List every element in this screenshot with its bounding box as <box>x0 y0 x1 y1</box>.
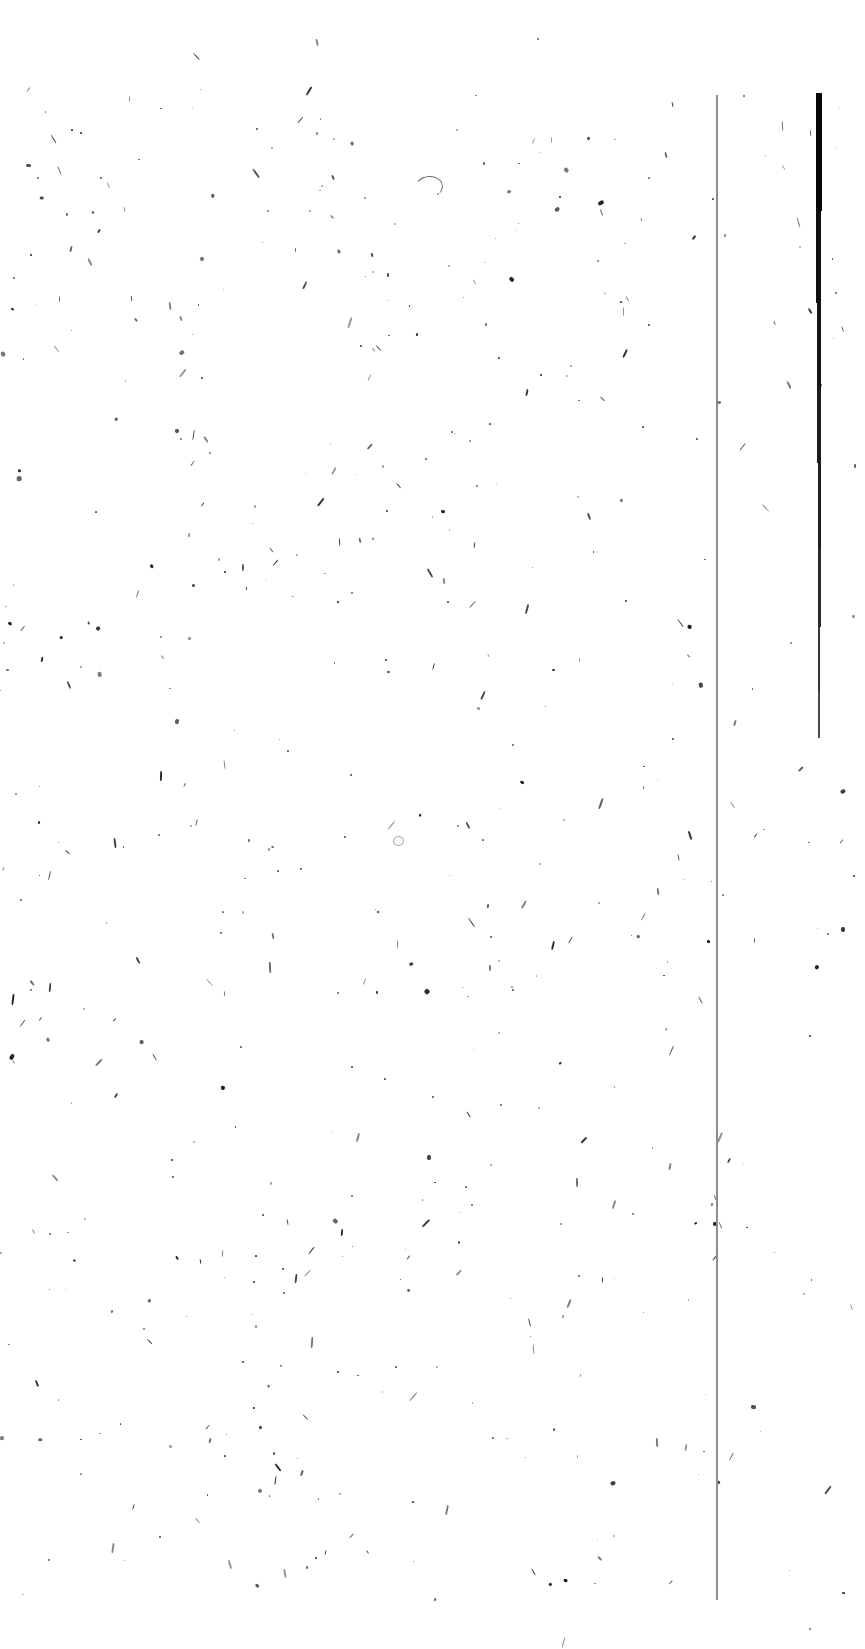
speckle-dot <box>765 155 766 156</box>
speckle-dot <box>39 786 41 788</box>
speckle-dot <box>100 177 102 179</box>
speckle-dot <box>525 389 528 396</box>
speckle-dot <box>632 1213 634 1216</box>
speckle-dot <box>746 1227 748 1229</box>
speckle-dot <box>482 839 484 841</box>
speckle-dot <box>152 1053 157 1060</box>
speckle-dot <box>330 444 332 445</box>
speckle-dot <box>641 912 646 920</box>
speckle-dot <box>579 658 581 662</box>
speckle-dot <box>13 277 15 278</box>
speckle-dot <box>809 1035 811 1037</box>
speckle-dot <box>129 96 131 102</box>
speckle-dot <box>597 260 598 261</box>
speckle-dot <box>252 523 253 524</box>
speckle-dot <box>652 1147 653 1149</box>
speckle-dot <box>372 537 374 539</box>
speckle-dot <box>222 911 223 913</box>
speckle-dot <box>473 1049 474 1051</box>
thick-rule-segment <box>818 627 820 691</box>
speckle-dot <box>518 223 519 224</box>
speckle-dot <box>668 1580 673 1585</box>
speckle-dot <box>99 1433 101 1435</box>
speckle-dot <box>751 1404 756 1408</box>
speckle-dot <box>23 358 25 359</box>
speckle-dot <box>34 1380 38 1387</box>
speckle-dot <box>253 1281 255 1283</box>
speckle-dot <box>521 901 527 909</box>
speckle-dot <box>87 622 90 625</box>
speckle-dot <box>500 1104 502 1106</box>
speckle-dot <box>143 1328 145 1330</box>
speckle-dot <box>498 1032 500 1034</box>
speckle-dot <box>298 117 304 123</box>
speckle-dot <box>52 1175 58 1182</box>
speckle-dot <box>47 1558 50 1561</box>
speckle-dot <box>597 1556 602 1561</box>
speckle-dot <box>309 210 311 213</box>
speckle-dot <box>789 1570 790 1572</box>
speckle-dot <box>199 256 204 261</box>
speckle-dot <box>839 108 840 109</box>
speckle-dot <box>817 928 818 929</box>
speckle-dot <box>636 935 640 939</box>
speckle-dot <box>112 1543 115 1553</box>
speckle-dot <box>423 988 430 995</box>
speckle-dot <box>384 1078 386 1080</box>
speckle-dot <box>540 374 542 376</box>
speckle-dot <box>211 193 214 197</box>
speckle-dot <box>46 1037 50 1042</box>
speckle-dot <box>279 739 280 740</box>
speckle-dot <box>39 875 40 876</box>
speckle-dot <box>694 1221 698 1225</box>
speckle-dot <box>562 1637 566 1647</box>
speckle-dot <box>269 962 271 973</box>
speckle-dot <box>835 292 837 294</box>
speckle-dot <box>301 284 305 290</box>
speckle-dot <box>419 813 422 816</box>
speckle-dot <box>705 1394 706 1395</box>
speckle-dot <box>743 95 744 97</box>
speckle-dot <box>386 510 388 512</box>
speckle-dot <box>665 1027 668 1030</box>
speckle-dot <box>294 1274 296 1283</box>
speckle-dot <box>656 888 659 895</box>
speckle-dot <box>337 1371 339 1373</box>
speckle-dot <box>532 138 535 144</box>
speckle-dot <box>253 1407 255 1409</box>
speckle-dot <box>448 265 450 267</box>
speckle-dot <box>161 655 164 659</box>
speckle-dot <box>698 1474 700 1475</box>
speckle-dot <box>193 1141 195 1143</box>
speckle-dot <box>332 1131 333 1133</box>
speckle-dot <box>413 1561 414 1562</box>
speckle-dot <box>95 1058 102 1065</box>
speckle-dot <box>648 177 650 180</box>
page-text-content <box>0 0 1 1</box>
speckle-dot <box>436 1366 438 1368</box>
speckle-dot <box>5 606 6 607</box>
speckle-dot <box>425 458 427 460</box>
speckle-dot <box>456 1269 462 1275</box>
speckle-dot <box>483 162 485 165</box>
speckle-dot <box>560 1223 562 1225</box>
speckle-dot <box>684 1443 687 1450</box>
speckle-dot <box>539 863 541 865</box>
speckle-dot <box>364 197 366 199</box>
thick-rule-segment <box>817 303 821 389</box>
speckle-dot <box>331 174 334 179</box>
speckle-dot <box>698 683 703 688</box>
speckle-dot <box>209 452 211 453</box>
speckle-dot <box>668 1163 671 1170</box>
speckle-dot <box>811 1279 812 1281</box>
speckle-dot <box>273 560 279 567</box>
speckle-dot <box>509 276 515 282</box>
speckle-dot <box>774 1252 776 1254</box>
speckle-dot <box>124 1560 125 1561</box>
thick-rule-segment <box>817 389 821 463</box>
speckle-dot <box>160 108 162 110</box>
speckle-dot <box>337 601 339 603</box>
speckle-dot <box>367 443 373 449</box>
speckle-dot <box>782 121 784 131</box>
speckle-dot <box>106 182 110 189</box>
